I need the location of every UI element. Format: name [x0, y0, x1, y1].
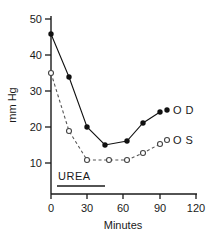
data-point-od-0 [48, 31, 53, 36]
y-axis-title: mm Hg [6, 87, 18, 122]
x-tick-label-30: 30 [81, 202, 93, 214]
y-tick-label-40: 40 [30, 49, 42, 61]
data-point-od-5 [140, 120, 145, 125]
legend-marker-os-open-circle-icon [165, 138, 170, 143]
data-point-od-2 [84, 124, 89, 129]
x-axis-title: Minutes [104, 219, 143, 231]
y-tick-label-50: 50 [30, 13, 42, 25]
data-point-od-3 [102, 142, 107, 147]
y-tick-label-30: 30 [30, 85, 42, 97]
data-point-os-1 [67, 129, 72, 134]
x-tick-label-60: 60 [117, 202, 129, 214]
y-tick-label-10: 10 [30, 157, 42, 169]
data-point-od-4 [124, 138, 129, 143]
legend-marker-od-filled-circle-icon [164, 107, 169, 112]
data-point-os-0 [49, 71, 54, 76]
legend-label-os: O S [173, 134, 193, 146]
data-point-os-3 [107, 158, 112, 163]
data-point-os-4 [125, 158, 130, 163]
y-tick-label-20: 20 [30, 121, 42, 133]
data-point-os-5 [141, 151, 146, 156]
urea-intraocular-pressure-chart: 50 40 30 20 10 0 30 60 90 120 Minutes mm… [0, 0, 212, 238]
data-point-od-1 [66, 74, 71, 79]
data-point-os-6 [158, 142, 163, 147]
data-point-od-6 [157, 109, 162, 114]
legend-label-od: O D [173, 104, 194, 116]
urea-annotation-label: UREA [58, 170, 91, 182]
x-tick-label-120: 120 [187, 202, 205, 214]
x-tick-label-90: 90 [154, 202, 166, 214]
data-point-os-2 [85, 158, 90, 163]
chart-background [0, 0, 212, 238]
